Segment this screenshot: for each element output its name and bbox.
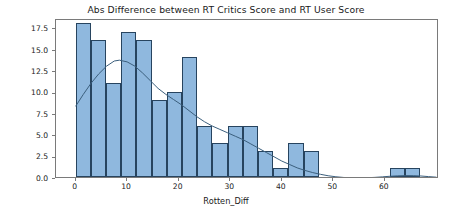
y-tick-label: 15.0 [14,46,48,55]
y-tick-label: 7.5 [14,110,48,119]
y-tick-label: 2.5 [14,152,48,161]
x-tick-mark [281,178,282,181]
kde-line [76,60,437,177]
y-tick-mark [52,178,55,179]
y-tick-label: 10.0 [14,88,48,97]
plot-frame [55,19,438,178]
x-tick-mark [332,178,333,181]
y-tick-label: 17.5 [14,24,48,33]
y-tick-mark [52,135,55,136]
x-tick-mark [75,178,76,181]
y-tick-mark [52,28,55,29]
y-tick-mark [52,157,55,158]
x-tick-mark [229,178,230,181]
x-tick-label: 40 [266,182,296,191]
y-tick-mark [52,50,55,51]
x-axis-label: Rotten_Diff [0,196,452,206]
x-tick-mark [178,178,179,181]
x-tick-mark [384,178,385,181]
y-tick-mark [52,114,55,115]
kde-density-curve [56,20,437,177]
x-tick-label: 50 [317,182,347,191]
x-tick-label: 60 [369,182,399,191]
plot-area [56,20,437,177]
histogram-figure: Abs Difference between RT Critics Score … [0,0,452,215]
chart-title: Abs Difference between RT Critics Score … [0,4,452,15]
x-tick-label: 20 [163,182,193,191]
x-tick-label: 0 [60,182,90,191]
y-tick-label: 0.0 [14,174,48,183]
y-tick-label: 12.5 [14,67,48,76]
y-tick-label: 5.0 [14,131,48,140]
y-tick-mark [52,93,55,94]
y-tick-mark [52,71,55,72]
x-tick-mark [126,178,127,181]
x-tick-label: 10 [111,182,141,191]
x-tick-label: 30 [214,182,244,191]
